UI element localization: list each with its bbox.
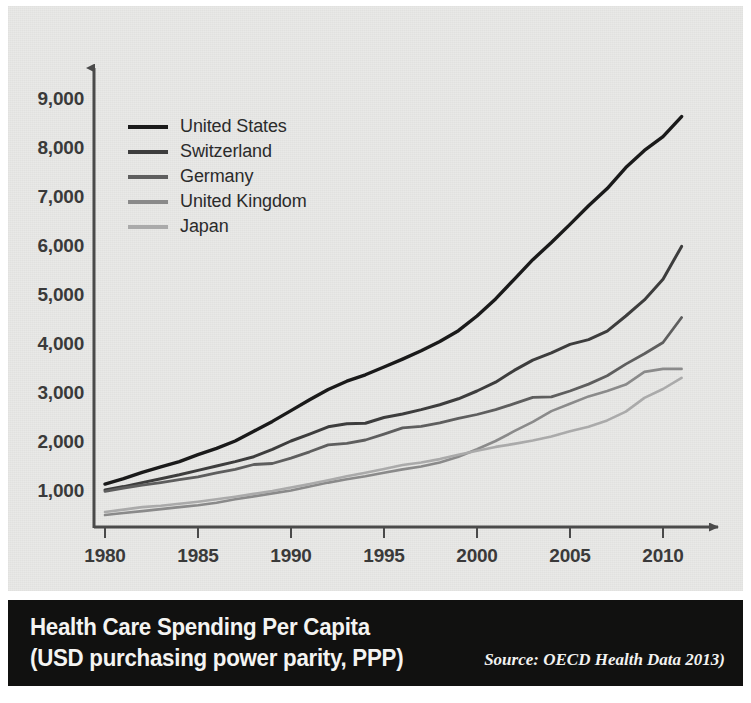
y-tick-3000: 3,000: [8, 382, 84, 404]
x-tick-1995: 1995: [349, 545, 419, 567]
y-tick-2000: 2,000: [8, 431, 84, 453]
x-tick-1990: 1990: [256, 545, 326, 567]
legend-item: Japan: [128, 214, 307, 239]
line-chart-plot: [8, 6, 743, 591]
source-note: Source: OECD Health Data 2013): [484, 650, 725, 670]
y-tick-8000: 8,000: [8, 137, 84, 159]
chart-page: 9,000 8,000 7,000 6,000 5,000 4,000 3,00…: [0, 0, 751, 703]
chart-panel: 9,000 8,000 7,000 6,000 5,000 4,000 3,00…: [8, 6, 743, 591]
series-line: [105, 369, 682, 515]
legend-item: Germany: [128, 164, 307, 189]
x-tick-1980: 1980: [70, 545, 140, 567]
y-tick-7000: 7,000: [8, 186, 84, 208]
x-tick-2000: 2000: [442, 545, 512, 567]
chart-legend: United StatesSwitzerlandGermanyUnited Ki…: [128, 114, 307, 239]
legend-item: United Kingdom: [128, 189, 307, 214]
legend-item-label: United States: [180, 116, 287, 137]
legend-swatch-icon: [128, 150, 168, 154]
legend-item: Switzerland: [128, 139, 307, 164]
legend-swatch-icon: [128, 225, 168, 229]
legend-item-label: Switzerland: [180, 141, 272, 162]
y-tick-9000: 9,000: [8, 88, 84, 110]
caption-text: Health Care Spending Per Capita (USD pur…: [30, 611, 431, 673]
y-tick-4000: 4,000: [8, 333, 84, 355]
x-tick-2005: 2005: [535, 545, 605, 567]
y-tick-1000: 1,000: [8, 480, 84, 502]
y-tick-6000: 6,000: [8, 235, 84, 257]
x-tick-1985: 1985: [163, 545, 233, 567]
legend-item-label: United Kingdom: [180, 191, 307, 212]
caption-title-line-1: Health Care Spending Per Capita: [30, 611, 403, 642]
legend-item-label: Japan: [180, 216, 229, 237]
legend-item-label: Germany: [180, 166, 253, 187]
x-tick-2010: 2010: [628, 545, 698, 567]
series-line: [105, 378, 682, 512]
legend-swatch-icon: [128, 175, 168, 179]
caption-bar: Health Care Spending Per Capita (USD pur…: [8, 600, 743, 686]
series-line: [105, 246, 682, 490]
legend-swatch-icon: [128, 125, 168, 129]
caption-title-line-2: (USD purchasing power parity, PPP): [30, 642, 403, 673]
y-tick-5000: 5,000: [8, 284, 84, 306]
series-line: [105, 318, 682, 492]
legend-item: United States: [128, 114, 307, 139]
legend-swatch-icon: [128, 200, 168, 204]
x-axis-ticks: [105, 527, 663, 538]
